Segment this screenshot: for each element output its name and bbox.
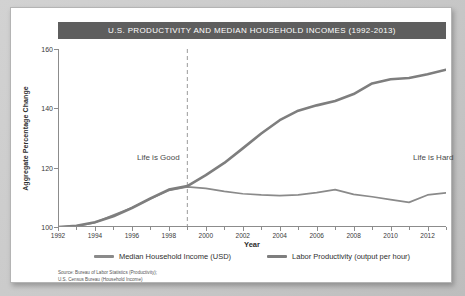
x-tick-mark <box>354 227 355 231</box>
x-tick-mark-minor <box>187 227 188 230</box>
annotation-life-is-good: Life is Good <box>137 153 180 162</box>
plot-area: 100120140160 199219941996199820002002200… <box>58 49 446 227</box>
legend-swatch-income <box>94 255 114 258</box>
y-tick-mark <box>54 108 58 109</box>
x-tick-label: 2000 <box>199 232 213 239</box>
x-tick-label: 2008 <box>346 232 360 239</box>
source-line-2: U.S. Census Bureau (Household Income) <box>58 277 157 284</box>
x-tick-mark <box>280 227 281 231</box>
source-line-1: Source: Bureau of Labor Statistics (Prod… <box>58 270 157 277</box>
x-tick-mark-minor <box>261 227 262 230</box>
x-tick-label: 2006 <box>309 232 323 239</box>
x-tick-mark-minor <box>150 227 151 230</box>
x-tick-label: 2004 <box>272 232 286 239</box>
x-tick-mark <box>58 227 59 231</box>
x-tick-label: 1994 <box>88 232 102 239</box>
x-tick-label: 2010 <box>383 232 397 239</box>
productivity-line <box>58 70 446 227</box>
x-tick-mark-minor <box>409 227 410 230</box>
x-tick-mark-minor <box>224 227 225 230</box>
x-tick-label: 1992 <box>51 232 65 239</box>
legend-item-productivity: Labor Productivity (output per hour) <box>267 252 410 261</box>
y-tick-label: 120 <box>41 164 53 171</box>
y-tick-mark <box>54 49 58 50</box>
x-tick-mark-minor <box>76 227 77 230</box>
chart-title: U.S. PRODUCTIVITY AND MEDIAN HOUSEHOLD I… <box>108 26 396 35</box>
y-tick-label: 160 <box>41 46 53 53</box>
screenshot-background: U.S. PRODUCTIVITY AND MEDIAN HOUSEHOLD I… <box>0 0 465 296</box>
chart-card: U.S. PRODUCTIVITY AND MEDIAN HOUSEHOLD I… <box>10 7 452 283</box>
y-axis-title-text: Aggregate Percentage Change <box>22 86 29 191</box>
x-tick-mark-minor <box>335 227 336 230</box>
x-tick-mark-minor <box>113 227 114 230</box>
y-axis-title: Aggregate Percentage Change <box>19 49 31 227</box>
chart-title-banner: U.S. PRODUCTIVITY AND MEDIAN HOUSEHOLD I… <box>58 22 446 39</box>
x-axis-title: Year <box>58 240 446 249</box>
x-tick-mark <box>169 227 170 231</box>
x-tick-mark-minor <box>298 227 299 230</box>
x-tick-label: 2012 <box>420 232 434 239</box>
legend-item-income: Median Household Income (USD) <box>94 252 231 261</box>
y-axis-line <box>58 49 59 227</box>
x-tick-mark-minor <box>372 227 373 230</box>
source-note: Source: Bureau of Labor Statistics (Prod… <box>58 270 157 283</box>
series-lines <box>58 49 446 227</box>
legend-label-income: Median Household Income (USD) <box>119 252 231 261</box>
x-tick-mark <box>428 227 429 231</box>
x-tick-mark <box>317 227 318 231</box>
y-tick-label: 140 <box>41 105 53 112</box>
y-tick-label: 100 <box>41 224 53 231</box>
x-tick-mark <box>206 227 207 231</box>
income-line <box>58 187 446 227</box>
x-tick-label: 1998 <box>162 232 176 239</box>
x-axis-line <box>58 226 446 227</box>
x-tick-mark <box>391 227 392 231</box>
x-tick-label: 1996 <box>125 232 139 239</box>
legend-label-productivity: Labor Productivity (output per hour) <box>292 252 410 261</box>
x-tick-mark <box>243 227 244 231</box>
x-tick-label: 2002 <box>236 232 250 239</box>
annotation-life-is-hard: Life is Hard <box>413 153 453 162</box>
x-tick-mark <box>95 227 96 231</box>
x-tick-mark-minor <box>446 227 447 230</box>
chart-legend: Median Household Income (USD) Labor Prod… <box>58 252 446 261</box>
y-tick-mark <box>54 168 58 169</box>
x-tick-mark <box>132 227 133 231</box>
legend-swatch-productivity <box>267 255 287 259</box>
